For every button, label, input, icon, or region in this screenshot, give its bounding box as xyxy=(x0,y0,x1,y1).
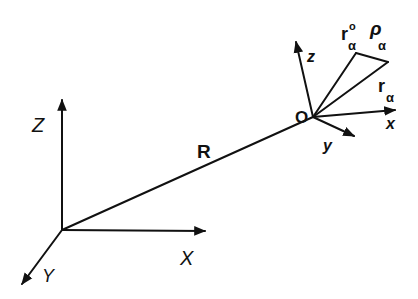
global-x-label: X xyxy=(179,247,194,269)
local-x-axis xyxy=(313,110,395,117)
global-x-axis xyxy=(62,230,205,231)
local-z-label: z xyxy=(306,48,315,65)
local-y-axis xyxy=(313,117,354,136)
global-z-label: Z xyxy=(31,114,45,136)
r0-vector-line xyxy=(313,53,356,117)
r-vector-label: R xyxy=(197,141,211,162)
svg-text:ρ: ρ xyxy=(369,18,382,39)
svg-text:r: r xyxy=(341,24,348,44)
svg-text:r: r xyxy=(378,76,385,96)
rho-label: ρ α xyxy=(369,18,386,53)
svg-text:α: α xyxy=(378,38,386,53)
position-vector: R xyxy=(62,117,313,230)
r-alpha-vector-line xyxy=(313,62,388,117)
atom-vectors: r o α ρ α r α xyxy=(313,18,394,117)
coordinate-diagram: Z X Y R O z x y r o α ρ α r xyxy=(0,0,418,299)
local-origin-label: O xyxy=(295,108,308,127)
svg-text:o: o xyxy=(349,20,356,32)
local-x-label: x xyxy=(385,115,396,132)
rho-vector-line xyxy=(356,53,388,62)
local-frame: O z x y xyxy=(295,42,396,154)
svg-text:α: α xyxy=(348,38,356,53)
r0-label: r o α xyxy=(341,20,356,53)
global-frame: Z X Y xyxy=(22,100,205,286)
svg-text:α: α xyxy=(386,90,394,105)
local-y-label: y xyxy=(322,137,333,154)
r-alpha-label: r α xyxy=(378,76,394,105)
global-y-label: Y xyxy=(42,266,56,286)
r-vector-line xyxy=(62,117,313,230)
